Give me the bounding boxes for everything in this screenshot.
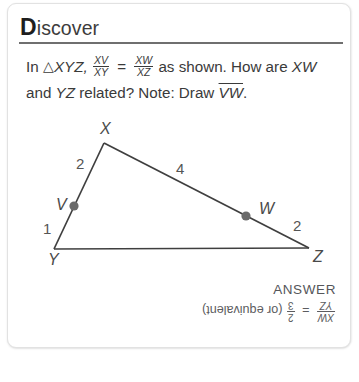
ratio-denominator: 3: [287, 300, 295, 312]
prompt-seg-yz: YZ: [56, 84, 75, 101]
prompt-seg-in: In: [26, 58, 39, 75]
measure-label-xw: 4: [176, 160, 184, 177]
triangle-icon: △: [43, 53, 54, 79]
prompt-text: In △XYZ, XVXY = XWXZ as shown. How are X…: [26, 54, 338, 106]
answer-equals-sign: =: [302, 303, 309, 317]
measure-label-xv: 2: [76, 155, 84, 172]
answer-fraction-xw-over-yz: XWYZ: [317, 300, 335, 323]
measure-label-wz: 2: [293, 217, 301, 234]
triangle-outline: [54, 143, 309, 249]
prompt-seg-xw: XW: [292, 58, 316, 75]
fraction-denominator: XZ: [134, 66, 153, 78]
fraction-numerator: XV: [93, 55, 109, 66]
point-label-w: W: [259, 200, 276, 217]
fraction-xv-over-xy: XVXY: [93, 55, 109, 78]
ratio-numerator: 2: [287, 312, 295, 323]
prompt-seg-and: and: [26, 84, 51, 101]
card-title: Discover: [20, 14, 99, 41]
segment-vw-overline: VW: [219, 84, 243, 101]
prompt-seg-related: related? Note: Draw: [79, 84, 214, 101]
fraction-xw-over-xz: XWXZ: [134, 55, 153, 78]
point-v-dot: [69, 201, 78, 210]
equals-sign: =: [117, 58, 126, 75]
answer-note: (or equivalent): [202, 303, 283, 317]
answer-ratio-fraction: 23: [287, 300, 295, 323]
vertex-label-z: Z: [312, 248, 324, 265]
discover-card: Discover In △XYZ, XVXY = XWXZ as shown. …: [7, 3, 351, 348]
card-title-initial: D: [20, 14, 37, 40]
edge-xy: [54, 143, 104, 249]
edge-xz: [104, 143, 309, 248]
vertex-label-y: Y: [48, 251, 60, 268]
page-root: Discover In △XYZ, XVXY = XWXZ as shown. …: [0, 0, 359, 382]
measure-label-vy: 1: [43, 220, 51, 237]
edge-yz: [54, 248, 309, 249]
fraction-numerator: XW: [134, 55, 153, 66]
point-label-v: V: [56, 196, 68, 213]
prompt-seg-as-shown: as shown. How are: [158, 58, 287, 75]
vertex-label-x: X: [99, 120, 112, 137]
prompt-period: .: [243, 84, 247, 101]
answer-inverted-text: XWYZ = 23 (or equivalent): [202, 300, 336, 323]
card-title-rest: iscover: [37, 17, 99, 39]
title-divider: [19, 42, 343, 44]
fraction-denominator: XY: [93, 66, 109, 78]
fraction-numerator: XW: [317, 312, 335, 323]
triangle-name: XYZ,: [54, 58, 88, 75]
point-w-dot: [241, 211, 250, 220]
answer-block: ANSWER XWYZ = 23 (or equivalent): [202, 282, 336, 323]
answer-heading: ANSWER: [202, 282, 336, 297]
fraction-denominator: YZ: [317, 300, 335, 312]
